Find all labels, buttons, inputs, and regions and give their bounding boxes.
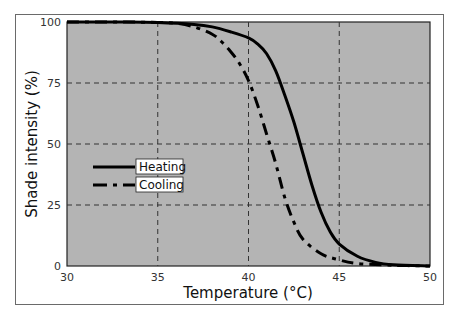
x-axis-ticks: 3035404550 <box>60 271 437 284</box>
x-tick-label: 50 <box>423 271 437 284</box>
y-tick-label: 25 <box>47 199 61 212</box>
x-axis-title: Temperature (°C) <box>182 284 312 302</box>
x-tick-label: 35 <box>151 271 165 284</box>
legend-cooling-label: Cooling <box>139 178 184 192</box>
y-tick-label: 50 <box>47 138 61 151</box>
y-tick-label: 75 <box>47 77 61 90</box>
x-tick-label: 40 <box>242 271 256 284</box>
legend-heating-label: Heating <box>139 160 186 174</box>
y-axis-title: Shade intensity (%) <box>23 70 41 218</box>
y-axis-ticks: 0255075100 <box>40 16 61 273</box>
x-tick-label: 30 <box>60 271 74 284</box>
y-tick-label: 100 <box>40 16 61 29</box>
line-chart: 3035404550 0255075100 Temperature (°C) S… <box>0 0 455 321</box>
x-tick-label: 45 <box>332 271 346 284</box>
y-tick-label: 0 <box>54 260 61 273</box>
